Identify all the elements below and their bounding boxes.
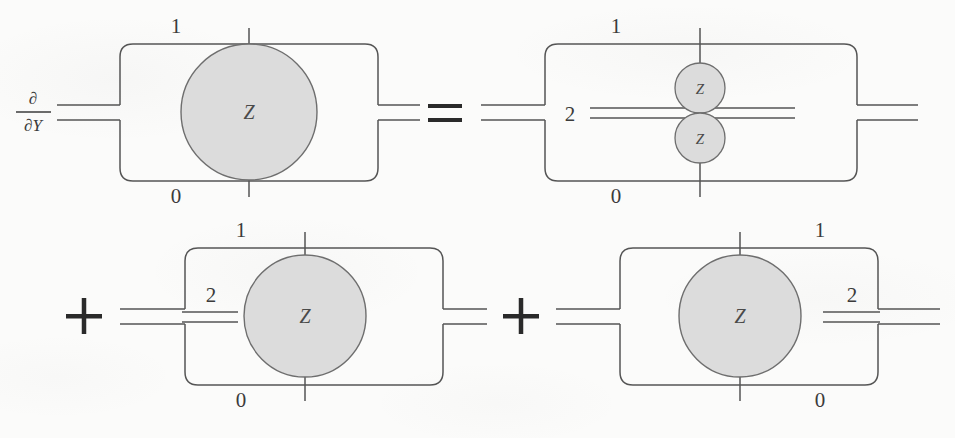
rhs-term-1-diagram: 2 Z Z 1 0 [481, 14, 918, 208]
tensor-network-figure: ∂ ∂Y Z 1 0 [0, 0, 955, 438]
plus2-vertical-bar [519, 298, 524, 334]
plus1-vertical-bar [82, 298, 87, 334]
derivative-numerator: ∂ [29, 89, 37, 108]
rhs2-node-label: Z [299, 305, 311, 327]
rhs2-label-top: 1 [236, 218, 247, 242]
rhs1-label-top: 1 [611, 14, 622, 38]
rhs-term-3-diagram: 2 Z 1 0 [556, 218, 940, 412]
rhs1-node-lower-label: Z [696, 131, 705, 147]
plus-operator-first [66, 298, 102, 334]
rhs2-edge-label: 2 [206, 283, 217, 307]
equals-operator [428, 104, 462, 122]
rhs3-node-label: Z [734, 305, 746, 327]
equals-bar-lower [428, 118, 462, 122]
figure-canvas: ∂ ∂Y Z 1 0 [0, 0, 955, 438]
lhs-diagram: Z 1 0 [57, 14, 420, 208]
equals-bar-upper [428, 104, 462, 108]
rhs3-label-top: 1 [815, 218, 826, 242]
rhs2-label-bottom: 0 [236, 388, 247, 412]
lhs-node-label: Z [243, 101, 255, 123]
plus-operator-second [503, 298, 539, 334]
rhs1-node-upper-label: Z [696, 81, 705, 97]
lhs-label-top: 1 [171, 14, 182, 38]
rhs3-label-bottom: 0 [815, 388, 826, 412]
rhs1-edge-label: 2 [565, 102, 576, 126]
rhs1-label-bottom: 0 [611, 184, 622, 208]
derivative-operator: ∂ ∂Y [16, 89, 51, 135]
derivative-denominator: ∂Y [24, 116, 43, 135]
rhs3-edge-label: 2 [847, 283, 858, 307]
lhs-label-bottom: 0 [171, 184, 182, 208]
rhs-term-2-diagram: 2 Z 1 0 [120, 218, 487, 412]
